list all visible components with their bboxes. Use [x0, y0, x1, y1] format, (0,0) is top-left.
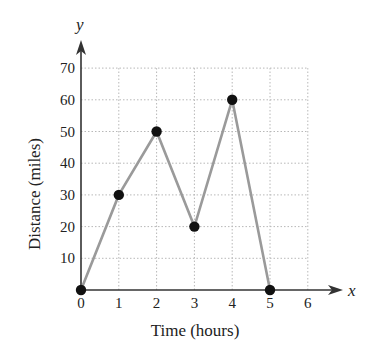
y-tick-labels: 10203040506070 [60, 60, 75, 266]
x-tick-label: 0 [77, 295, 85, 311]
x-tick-label: 1 [115, 295, 123, 311]
y-axis-title: Distance (miles) [25, 138, 44, 250]
y-tick-label: 60 [60, 92, 75, 108]
x-tick-labels: 0123456 [77, 295, 312, 311]
x-tick-label: 3 [191, 295, 199, 311]
y-tick-label: 40 [60, 155, 75, 171]
axes [76, 40, 343, 295]
y-tick-label: 50 [60, 124, 75, 140]
data-point-marker [151, 126, 161, 136]
y-tick-label: 70 [60, 60, 75, 76]
y-tick-label: 30 [60, 187, 75, 203]
y-tick-label: 20 [60, 219, 75, 235]
x-axis-title: Time (hours) [151, 321, 240, 340]
data-point-marker [114, 190, 124, 200]
line-chart: 0123456 10203040506070 x y Time (hours) … [0, 0, 374, 360]
x-tick-label: 5 [266, 295, 274, 311]
y-axis-variable: y [74, 15, 84, 34]
data-point-marker [76, 285, 86, 295]
x-tick-label: 2 [153, 295, 161, 311]
x-tick-label: 6 [304, 295, 312, 311]
data-point-marker [189, 221, 199, 231]
data-point-marker [227, 95, 237, 105]
x-axis-variable: x [347, 281, 356, 300]
x-tick-label: 4 [228, 295, 236, 311]
data-point-marker [265, 285, 275, 295]
grid-lines [81, 68, 308, 290]
y-tick-label: 10 [60, 250, 75, 266]
